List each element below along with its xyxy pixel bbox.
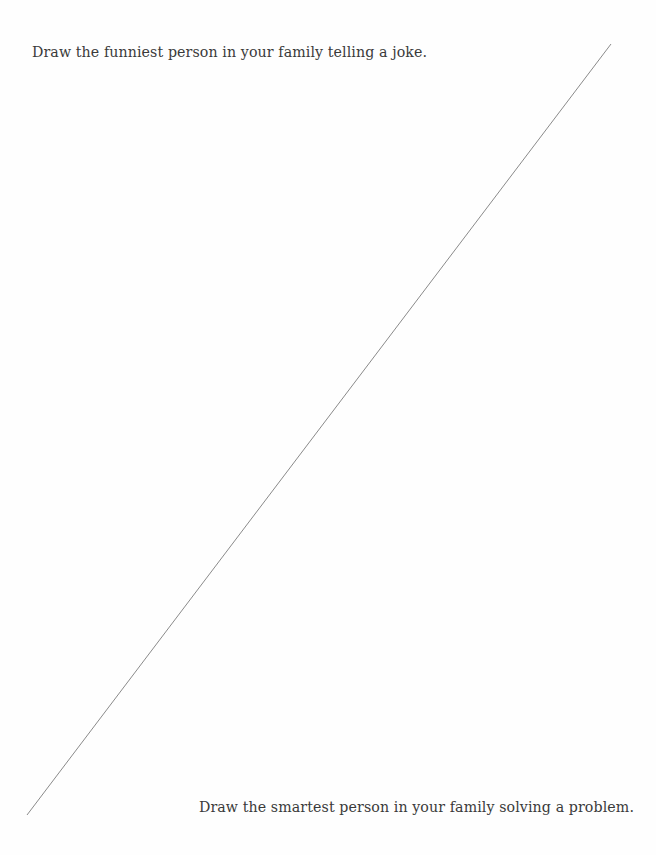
bottom-drawing-prompt: Draw the smartest person in your family … — [199, 798, 634, 816]
diagonal-divider-line — [0, 0, 656, 855]
activity-page: Draw the funniest person in your family … — [0, 0, 656, 855]
